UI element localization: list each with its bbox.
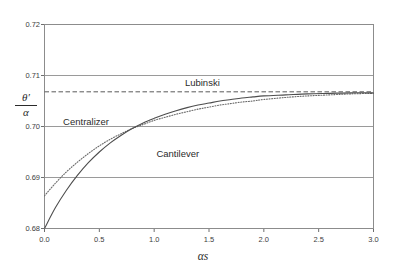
series-label-centralizer: Centralizer: [63, 116, 109, 127]
chart-figure: 0.680.690.700.710.72 0.00.51.01.52.02.53…: [0, 0, 406, 272]
x-tick-label: 1.5: [193, 235, 225, 244]
y-tick-label: 0.68: [8, 224, 40, 233]
x-axis-label: αs: [0, 250, 406, 262]
x-tick-label: 0.0: [29, 235, 61, 244]
y-tick-label: 0.72: [8, 20, 40, 29]
series-label-lubinski: Lubinski: [185, 77, 220, 88]
x-tick-label: 1.0: [138, 235, 170, 244]
x-tick-label: 0.5: [83, 235, 115, 244]
y-axis-label: θ′ α: [13, 92, 39, 118]
series-line-cantilever: [45, 93, 374, 229]
x-tick-label: 3.0: [358, 235, 390, 244]
x-tick-marks-group: [45, 229, 374, 233]
x-tick-label: 2.5: [303, 235, 335, 244]
x-tick-label: 2.0: [248, 235, 280, 244]
y-tick-label: 0.70: [8, 122, 40, 131]
plot-canvas: [0, 0, 406, 272]
y-tick-marks-group: [41, 25, 45, 229]
series-label-cantilever: Cantilever: [156, 148, 199, 159]
y-tick-label: 0.69: [8, 173, 40, 182]
series-line-centralizer: [45, 93, 374, 196]
y-axis-label-denominator: α: [13, 106, 39, 119]
y-tick-label: 0.71: [8, 71, 40, 80]
y-axis-label-numerator: θ′: [13, 92, 39, 105]
